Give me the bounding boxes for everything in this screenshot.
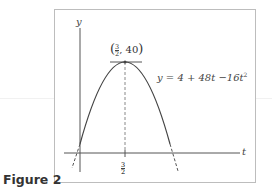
vertex-label: (32, 40) bbox=[110, 41, 143, 57]
equation-exponent: 2 bbox=[244, 71, 248, 78]
y-axis-label: y bbox=[76, 16, 82, 27]
vertex-point bbox=[124, 61, 127, 64]
figure-caption: Figure 2 bbox=[3, 172, 61, 187]
tick-label: 32 bbox=[121, 158, 125, 177]
equation-label: y = 4 + 48t −16t2 bbox=[157, 71, 247, 83]
tick-den: 2 bbox=[121, 169, 125, 175]
parabola-plot bbox=[0, 0, 272, 195]
left-extension bbox=[72, 144, 80, 168]
vertex-rest: , 40 bbox=[119, 44, 138, 55]
right-extension bbox=[170, 144, 178, 171]
equation-text: y = 4 + 48t −16t bbox=[157, 72, 244, 83]
t-axis-label: t bbox=[242, 146, 246, 157]
